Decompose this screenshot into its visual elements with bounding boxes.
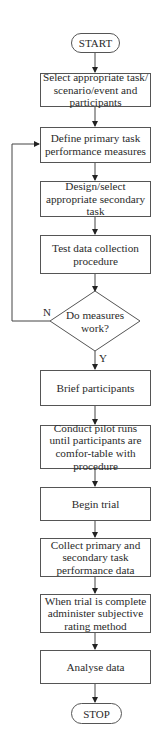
step-select-task: Select appropriate task/ scenario/event …	[40, 73, 151, 107]
step-define-measures: Define primary task performance measures	[40, 127, 151, 163]
step-begin-trial: Begin trial	[40, 487, 151, 521]
step-collect-data: Collect primary and secondary task perfo…	[40, 538, 151, 577]
decision-yes-label: Y	[99, 352, 107, 364]
stop-terminal: STOP	[71, 703, 122, 724]
start-terminal: START	[71, 33, 120, 53]
flowchart: START Select appropriate task/ scenario/…	[0, 0, 164, 743]
step-brief-participants: Brief participants	[40, 370, 151, 406]
decision-no-label: N	[43, 306, 51, 318]
step-subjective-rating: When trial is complete administer subjec…	[40, 594, 151, 633]
step-pilot-runs: Conduct pilot runs until participants ar…	[40, 425, 151, 469]
step-analyse-data: Analyse data	[40, 650, 151, 684]
step-test-data-collection: Test data collection procedure	[40, 235, 151, 274]
step-design-secondary-task: Design/select appropriate secondary task	[40, 181, 151, 217]
decision-measures-work: Do measures work?	[60, 309, 130, 334]
